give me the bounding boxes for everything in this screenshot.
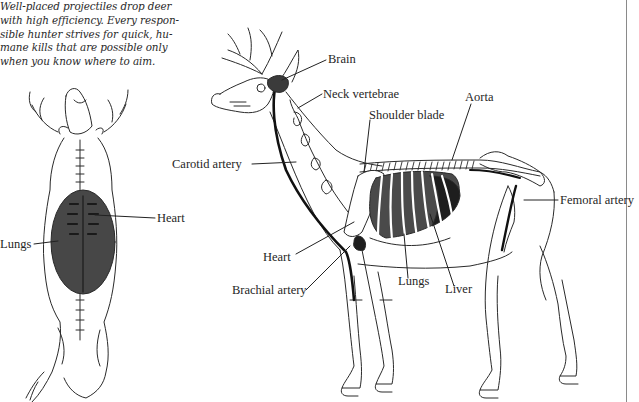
label-brain: Brain — [328, 52, 356, 66]
label-carotid-artery: Carotid artery — [172, 157, 242, 171]
label-neck-vertebrae: Neck vertebrae — [323, 87, 399, 101]
label-lungs: Lungs — [398, 274, 429, 288]
anatomy-illustration — [0, 0, 639, 402]
label-top-heart: Heart — [157, 211, 185, 225]
label-top-lungs: Lungs — [0, 237, 31, 251]
label-shoulder-blade: Shoulder blade — [369, 108, 444, 122]
label-femoral-artery: Femoral artery — [560, 193, 634, 207]
label-liver: Liver — [445, 282, 472, 296]
label-brachial-artery: Brachial artery — [232, 283, 307, 297]
side-view-heart — [354, 236, 366, 251]
label-heart: Heart — [263, 250, 291, 264]
label-aorta: Aorta — [465, 90, 493, 104]
